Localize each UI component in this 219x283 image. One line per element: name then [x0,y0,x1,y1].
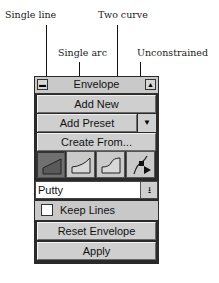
single-line-icon [40,155,64,177]
keep-lines-checkbox[interactable] [41,204,53,216]
triangle-up-icon: ▲ [147,81,154,88]
apply-button[interactable]: Apply [37,242,156,260]
mapping-mode-dropdown[interactable]: Putty ⭳ [35,181,158,199]
two-curve-icon [99,154,123,176]
dropdown-arrow-icon[interactable]: ⭳ [140,182,157,198]
keep-lines-row[interactable]: Keep Lines [35,201,158,220]
unconstrained-icon [129,154,153,176]
callout-single-line: Single line [5,9,56,20]
panel-title: Envelope [49,78,144,90]
callout-two-curve: Two curve [98,9,148,20]
mode-single-arc-button[interactable] [66,151,95,178]
keep-lines-label: Keep Lines [60,201,115,220]
envelope-panel: ▬ Envelope ▲ Add New Add Preset ▼ Create… [34,76,159,264]
add-preset-button[interactable]: Add Preset [37,114,137,132]
mode-unconstrained-button[interactable] [126,151,155,178]
create-from-button[interactable]: Create From... [37,133,156,151]
add-new-button[interactable]: Add New [37,95,156,113]
title-bar[interactable]: ▬ Envelope ▲ [35,77,158,94]
callout-unconstrained: Unconstrained [137,47,208,58]
callout-single-arc: Single arc [58,47,107,58]
mapping-mode-value: Putty [38,184,63,196]
close-button[interactable]: ▬ [37,79,48,90]
preset-menu-button[interactable]: ▼ [138,114,156,132]
collapse-button[interactable]: ▲ [145,79,156,90]
mode-two-curve-button[interactable] [96,151,125,178]
mode-single-line-button[interactable] [36,151,65,178]
minus-bar-icon: ▬ [39,81,46,88]
single-arc-icon [69,154,93,176]
reset-envelope-button[interactable]: Reset Envelope [37,222,156,240]
triangle-down-icon: ▼ [143,118,151,127]
